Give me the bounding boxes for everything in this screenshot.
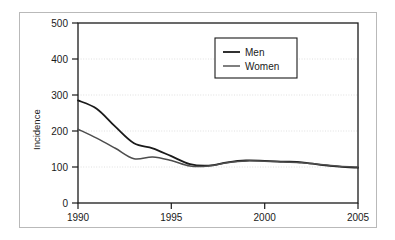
x-axis-ticks <box>78 203 358 209</box>
incidence-line-chart: 500 400 300 200 100 0 Incidence 1990 199… <box>0 0 395 240</box>
xtick-label-1995: 1995 <box>160 212 183 223</box>
ytick-label-200: 200 <box>51 126 68 137</box>
ytick-label-400: 400 <box>51 54 68 65</box>
xtick-label-2000: 2000 <box>254 212 277 223</box>
chart-figure: 500 400 300 200 100 0 Incidence 1990 199… <box>0 0 395 240</box>
ytick-label-300: 300 <box>51 90 68 101</box>
legend-box <box>215 38 297 78</box>
y-axis-tick-labels: 500 400 300 200 100 0 <box>51 18 68 209</box>
xtick-label-2005: 2005 <box>347 212 370 223</box>
xtick-label-1990: 1990 <box>67 212 90 223</box>
legend-label-women: Women <box>245 61 279 72</box>
x-axis-tick-labels: 1990 1995 2000 2005 <box>67 212 370 223</box>
legend-label-men: Men <box>245 47 264 58</box>
ytick-label-0: 0 <box>62 198 68 209</box>
ytick-label-500: 500 <box>51 18 68 29</box>
y-axis-title: Incidence <box>31 109 42 150</box>
y-axis-ticks <box>72 23 78 203</box>
chart-legend: Men Women <box>215 38 297 78</box>
ytick-label-100: 100 <box>51 162 68 173</box>
